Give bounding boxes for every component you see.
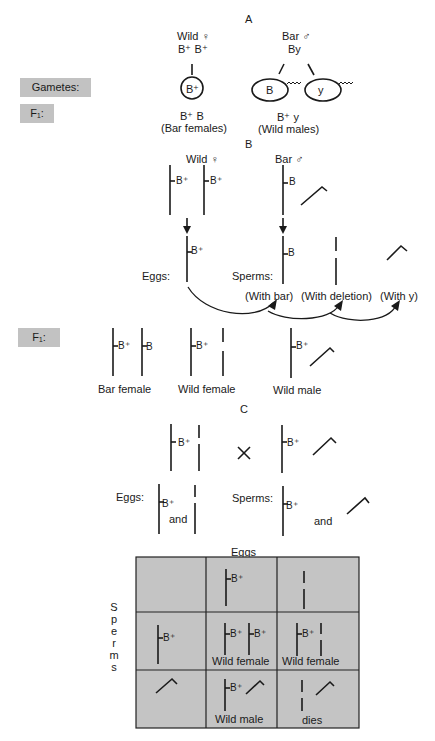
punnett-r1c1-allele-2: B⁺	[254, 628, 266, 640]
punnett-r2c1-label: Wild male	[215, 713, 263, 725]
punnett-row1-allele: B⁺	[163, 632, 175, 644]
punnett-r1c1-allele-1: B⁺	[230, 628, 242, 640]
punnett-header-allele: B⁺	[231, 573, 243, 585]
punnett-r1c2-allele: B⁺	[302, 628, 314, 640]
punnett-r2c2-label: dies	[302, 714, 322, 726]
diagram-graphics	[0, 0, 435, 741]
punnett-r1c2-label: Wild female	[282, 655, 339, 667]
punnett-r1c1-label: Wild female	[212, 655, 269, 667]
punnett-r2c1-allele: B⁺	[230, 682, 242, 694]
